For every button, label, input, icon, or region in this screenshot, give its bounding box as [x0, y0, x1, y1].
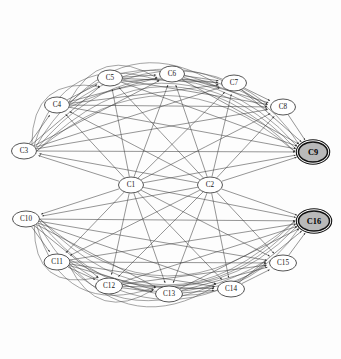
graph-edge — [121, 82, 297, 146]
node-layer: C1C2C3C4C5C6C7C8C9C10C11C12C13C14C15C16 — [12, 66, 332, 302]
graph-edge — [39, 154, 197, 183]
node-shape — [96, 278, 123, 294]
node-shape — [12, 143, 37, 159]
graph-edge — [242, 90, 302, 142]
node-shape — [218, 281, 245, 297]
graph-node-c3[interactable]: C3 — [12, 143, 37, 159]
directed-graph-diagram: C1C2C3C4C5C6C7C8C9C10C11C12C13C14C15C16 — [0, 0, 341, 359]
graph-edge — [217, 192, 274, 253]
graph-node-c12[interactable]: C12 — [96, 278, 123, 294]
graph-edge — [288, 115, 305, 140]
graph-node-c2[interactable]: C2 — [198, 177, 223, 193]
graph-edge-curved — [121, 79, 297, 146]
node-shape — [222, 75, 247, 91]
graph-node-c10[interactable]: C10 — [13, 211, 40, 227]
graph-edge — [32, 87, 100, 145]
graph-edge — [66, 192, 124, 253]
graph-edge — [143, 155, 295, 183]
node-shape — [271, 99, 296, 115]
long-edge-layer — [32, 63, 299, 307]
graph-edge — [176, 85, 207, 177]
graph-edge — [36, 110, 267, 149]
graph-edge-curved — [37, 95, 295, 151]
graph-node-c13[interactable]: C13 — [156, 286, 183, 302]
graph-node-c16[interactable]: C16 — [296, 209, 331, 233]
graph-edge — [66, 114, 125, 177]
graph-edge-curved — [70, 224, 296, 286]
graph-edge — [40, 219, 295, 221]
graph-node-c6[interactable]: C6 — [160, 66, 185, 82]
graph-edge — [42, 187, 197, 216]
graph-node-c5[interactable]: C5 — [98, 70, 123, 86]
node-shape — [299, 211, 330, 231]
graph-edge — [138, 92, 225, 178]
graph-edge — [67, 85, 97, 100]
graph-node-c4[interactable]: C4 — [45, 97, 70, 113]
graph-edge — [143, 187, 296, 217]
graph-edge — [41, 189, 119, 214]
graph-node-c7[interactable]: C7 — [222, 75, 247, 91]
node-shape — [45, 97, 70, 113]
node-shape — [156, 286, 183, 302]
graph-node-c8[interactable]: C8 — [271, 99, 296, 115]
node-shape — [98, 70, 123, 86]
node-shape — [119, 177, 144, 193]
node-shape — [160, 66, 185, 82]
graph-edge — [37, 151, 295, 152]
graph-edge — [134, 85, 168, 177]
graph-edge-curved — [123, 265, 267, 295]
graph-canvas: C1C2C3C4C5C6C7C8C9C10C11C12C13C14C15C16 — [0, 0, 341, 359]
graph-node-c11[interactable]: C11 — [44, 254, 70, 270]
node-shape — [13, 211, 40, 227]
graph-node-c15[interactable]: C15 — [270, 255, 297, 271]
graph-edge — [70, 112, 200, 180]
graph-edge-curved — [69, 83, 295, 149]
graph-edge — [38, 223, 216, 284]
graph-edge — [118, 192, 203, 277]
graph-edge — [70, 224, 296, 260]
graph-edge — [289, 233, 306, 256]
graph-edge — [70, 85, 219, 103]
graph-edge — [34, 226, 98, 278]
graph-edge — [141, 114, 270, 180]
graph-node-c1[interactable]: C1 — [119, 177, 144, 193]
graph-edge — [70, 105, 267, 107]
node-shape — [198, 177, 223, 193]
node-shape — [270, 255, 297, 271]
graph-edge — [173, 193, 207, 283]
graph-edge — [239, 231, 302, 282]
graph-edge — [141, 190, 270, 256]
graph-edge — [138, 192, 222, 280]
graph-node-c14[interactable]: C14 — [218, 281, 245, 297]
node-shape — [299, 142, 328, 162]
graph-node-c9[interactable]: C9 — [296, 140, 329, 164]
graph-edge — [221, 189, 297, 215]
graph-edge — [39, 221, 266, 260]
node-shape — [44, 254, 70, 270]
graph-edge — [70, 262, 266, 263]
